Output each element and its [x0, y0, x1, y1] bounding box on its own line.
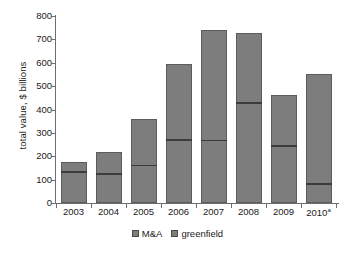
bar-segment-divider-2005 [131, 165, 157, 167]
y-axis-tick-label: 400 [26, 105, 52, 115]
y-axis-tick-label: 0 [26, 198, 52, 208]
y-axis-tick-mark [51, 39, 55, 40]
bar-segment-divider-2010ᵃ [306, 183, 332, 185]
y-axis-tick-mark [51, 133, 55, 134]
y-axis-tick-label: 200 [26, 151, 52, 161]
legend-swatch-icon [132, 230, 139, 237]
legend-item-mna[interactable]: M&A [132, 228, 163, 239]
x-axis-line [55, 203, 339, 204]
y-axis-tick-mark [51, 180, 55, 181]
bar-segment-divider-2006 [166, 139, 192, 141]
y-axis-tick-mark [51, 86, 55, 87]
bar-2008 [236, 33, 262, 203]
bar-segment-divider-2003 [61, 171, 87, 173]
bar-segment-divider-2007 [201, 140, 227, 142]
y-axis-tick-label: 600 [26, 58, 52, 68]
x-axis-tick-mark [336, 204, 337, 208]
y-axis-tick-label: 300 [26, 128, 52, 138]
bar-2009 [271, 95, 297, 203]
bar-2007 [201, 30, 227, 203]
legend-swatch-icon [171, 230, 178, 237]
y-axis-tick-mark [51, 63, 55, 64]
y-axis-tick-label: 800 [26, 11, 52, 21]
legend-label: M&A [142, 228, 163, 239]
chart-legend: M&Agreenfield [0, 228, 355, 239]
y-axis-tick-label: 700 [26, 34, 52, 44]
y-axis-tick-mark [51, 16, 55, 17]
bar-2006 [166, 64, 192, 203]
bar-chart: total value, $ billions 0100200300400500… [0, 0, 355, 254]
bar-segment-divider-2004 [96, 173, 122, 175]
bar-2004 [96, 152, 122, 203]
bar-2005 [131, 119, 157, 203]
y-axis-tick-mark [51, 110, 55, 111]
bar-2003 [61, 162, 87, 203]
x-axis-tick-label-2010ᵃ: 2010a [297, 207, 341, 218]
legend-item-greenfield[interactable]: greenfield [171, 228, 223, 239]
bar-segment-divider-2009 [271, 145, 297, 147]
y-axis-tick-mark [51, 203, 55, 204]
y-axis-tick-mark [51, 156, 55, 157]
bar-segment-divider-2008 [236, 102, 262, 104]
y-axis-tick-label: 500 [26, 81, 52, 91]
y-axis-tick-labels: 0100200300400500600700800 [22, 0, 52, 254]
legend-label: greenfield [181, 228, 223, 239]
y-axis-tick-label: 100 [26, 175, 52, 185]
